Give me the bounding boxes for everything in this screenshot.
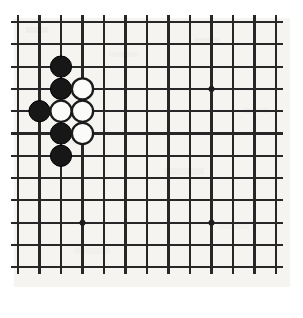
stone-black-1[interactable] <box>50 56 71 77</box>
stone-black-4[interactable] <box>50 123 71 144</box>
stone-white-1[interactable] <box>72 78 93 99</box>
stone-black-5[interactable] <box>50 145 71 166</box>
stone-white-3[interactable] <box>72 101 93 122</box>
go-board-diagram <box>0 0 303 318</box>
stones-layer <box>0 0 303 318</box>
stone-white-4[interactable] <box>72 123 93 144</box>
stone-black-2[interactable] <box>50 78 71 99</box>
stone-white-2[interactable] <box>50 101 71 122</box>
stone-black-3[interactable] <box>29 101 50 122</box>
